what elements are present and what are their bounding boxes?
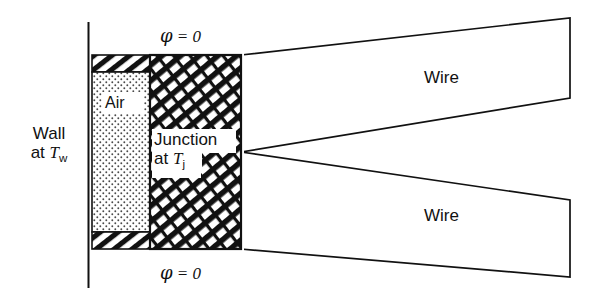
junction-label: Junction at Tj	[153, 130, 219, 172]
wire-top-shape	[241, 18, 570, 152]
wall-temperature-subscript: w	[59, 152, 67, 164]
wire-top-label: Wire	[424, 68, 459, 87]
thermocouple-junction-diagram: Wall at Tw Air Junction at Tj φ = 0 φ = …	[0, 0, 595, 303]
wall-at-text: at	[31, 143, 50, 162]
air-label: Air	[103, 93, 128, 113]
wall-label-line2: at Tw	[14, 143, 84, 165]
phi-equals-top: = 0	[173, 27, 201, 46]
phi-equals-bottom: = 0	[173, 264, 201, 283]
junction-at-text: at	[154, 149, 173, 168]
air-bottom-hatch-strip	[92, 232, 150, 249]
phi-symbol-bottom: φ	[160, 262, 173, 283]
wall-label: Wall at Tw	[14, 124, 84, 165]
junction-temperature-symbol: T	[173, 149, 182, 168]
wall-temperature-symbol: T	[50, 143, 59, 162]
junction-temperature-subscript: j	[182, 158, 185, 170]
junction-label-line1: Junction	[153, 130, 219, 149]
wall-label-line1: Wall	[14, 124, 84, 143]
air-top-hatch-strip	[92, 55, 150, 72]
phi-zero-bottom-label: φ = 0	[160, 263, 201, 283]
phi-symbol-top: φ	[160, 25, 173, 46]
junction-label-line2: at Tj	[153, 149, 202, 172]
wire-bottom-shape	[241, 152, 570, 277]
diagram-canvas	[0, 0, 595, 303]
phi-zero-top-label: φ = 0	[160, 26, 201, 46]
wire-bottom-label: Wire	[424, 206, 459, 225]
